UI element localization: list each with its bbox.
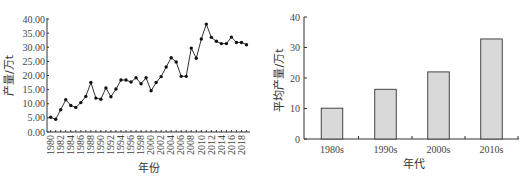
y-tick-label: 30 <box>290 42 300 53</box>
y-tick-label: 40 <box>290 12 300 23</box>
bar-1990s <box>375 89 397 139</box>
y-tick-label: 10 <box>290 103 300 114</box>
x-tick-label: 2000s <box>427 144 451 155</box>
bar-2000s <box>428 72 450 139</box>
bar-2010s <box>481 39 503 139</box>
bar-chart: 0102030401980s1990s2000s2010s平均产量/万t年代 <box>0 0 523 177</box>
x-tick-label: 1980s <box>320 144 344 155</box>
bar-1980s <box>321 108 343 139</box>
x-tick-label: 1990s <box>374 144 398 155</box>
y-axis-title: 平均产量/万t <box>272 48 286 112</box>
y-tick-label: 0 <box>295 134 300 145</box>
x-axis-title: 年代 <box>403 157 425 171</box>
y-tick-label: 20 <box>290 73 300 84</box>
x-tick-label: 2010s <box>480 144 504 155</box>
